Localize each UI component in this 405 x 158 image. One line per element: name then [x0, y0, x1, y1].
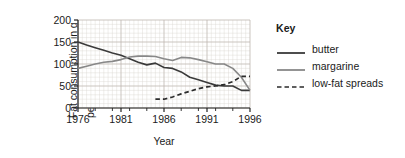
legend-swatch-solid [276, 44, 306, 54]
legend-item-butter[interactable]: butter [276, 40, 404, 57]
legend-item-low-fat-spreads[interactable]: low-fat spreads [276, 74, 404, 91]
y-tick-label: 200 [53, 14, 71, 26]
legend-label: butter [312, 43, 339, 55]
legend-swatch-dashed [276, 78, 306, 88]
y-tick-label: 100 [53, 58, 71, 70]
chart-legend: Key buttermargarinelow-fat spreads [276, 22, 404, 91]
legend-item-margarine[interactable]: margarine [276, 57, 404, 74]
plot-area: 05010015020019761981198619911996 [0, 0, 265, 135]
legend-title: Key [276, 22, 404, 34]
legend-swatch-solid [276, 61, 306, 71]
x-tick-label: 1986 [152, 113, 176, 125]
y-tick-label: 0 [65, 102, 71, 114]
x-axis-title: Year [78, 135, 250, 147]
chart-screenshot: Fat consumption in g per person per week… [0, 0, 405, 158]
x-tick-label: 1996 [238, 113, 262, 125]
y-tick-label: 50 [59, 80, 71, 92]
line-chart: Fat consumption in g per person per week… [0, 0, 265, 158]
x-tick-label: 1991 [195, 113, 219, 125]
x-tick-label: 1976 [66, 113, 90, 125]
legend-label: low-fat spreads [312, 77, 383, 89]
legend-label: margarine [312, 60, 359, 72]
legend-items: buttermargarinelow-fat spreads [276, 40, 404, 91]
x-tick-label: 1981 [109, 113, 133, 125]
y-tick-label: 150 [53, 36, 71, 48]
